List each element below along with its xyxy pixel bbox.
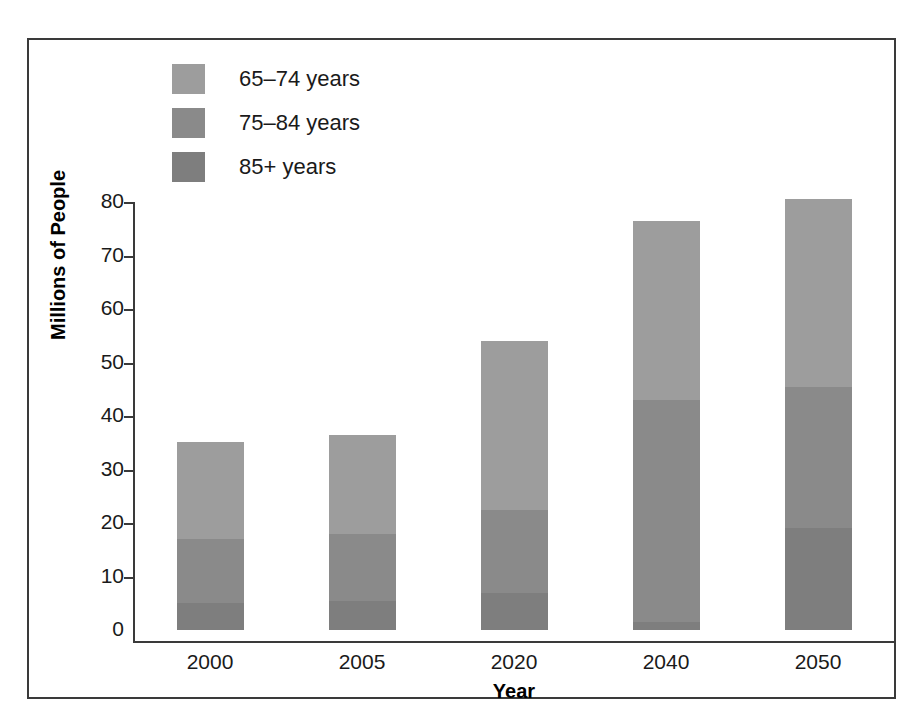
x-tick-label-2020: 2020 (454, 650, 574, 674)
legend-label: 85+ years (239, 155, 336, 179)
legend-swatch-icon (172, 108, 205, 138)
y-tick-label: 50 (101, 351, 124, 373)
bar-segment-75-84-years-2005[interactable] (329, 534, 396, 601)
bar-2005[interactable] (329, 435, 396, 630)
x-tick-label-2005: 2005 (302, 650, 422, 674)
bar-segment-65-74-years-2000[interactable] (177, 442, 244, 539)
legend-item-0[interactable]: 65–74 years (172, 57, 360, 101)
y-tick-label: 30 (101, 458, 124, 480)
legend-item-1[interactable]: 75–84 years (172, 101, 360, 145)
y-tick-label: 0 (112, 618, 124, 640)
bar-segment-85-years-2050[interactable] (785, 528, 852, 630)
y-tick-mark (124, 416, 134, 418)
legend-swatch-icon (172, 152, 205, 182)
bar-segment-85-years-2020[interactable] (481, 593, 548, 630)
y-tick-label: 40 (101, 404, 124, 426)
bar-2000[interactable] (177, 442, 244, 630)
bar-2050[interactable] (785, 199, 852, 630)
y-tick-label: 70 (101, 244, 124, 266)
bar-segment-75-84-years-2050[interactable] (785, 387, 852, 529)
bar-segment-85-years-2000[interactable] (177, 603, 244, 630)
y-tick-mark (124, 256, 134, 258)
legend-label: 65–74 years (239, 67, 360, 91)
y-tick-mark (124, 363, 134, 365)
bar-segment-85-years-2005[interactable] (329, 601, 396, 630)
y-tick-label: 80 (101, 190, 124, 212)
x-tick-label-2050: 2050 (758, 650, 878, 674)
bar-segment-75-84-years-2020[interactable] (481, 510, 548, 593)
figure-frame: Millions of People 65–74 years75–84 year… (27, 38, 896, 699)
y-tick-mark (124, 470, 134, 472)
x-tick-label-2000: 2000 (150, 650, 270, 674)
legend-swatch-icon (172, 64, 205, 94)
x-axis-line (133, 641, 895, 643)
plot-region: 01020304050607080 20002005202020402050 Y… (134, 202, 894, 642)
chart-area: Millions of People 65–74 years75–84 year… (29, 40, 898, 701)
y-tick-label: 60 (101, 297, 124, 319)
y-axis-title: Millions of People (47, 170, 70, 340)
bar-2040[interactable] (633, 221, 700, 630)
legend-item-2[interactable]: 85+ years (172, 145, 360, 189)
bar-segment-65-74-years-2040[interactable] (633, 221, 700, 400)
y-tick-label: 20 (101, 511, 124, 533)
chart-legend: 65–74 years75–84 years85+ years (172, 57, 360, 189)
bar-segment-65-74-years-2005[interactable] (329, 435, 396, 534)
bar-segment-85-years-2040[interactable] (633, 622, 700, 630)
bar-segment-65-74-years-2020[interactable] (481, 341, 548, 510)
bar-segment-75-84-years-2040[interactable] (633, 400, 700, 622)
legend-label: 75–84 years (239, 111, 360, 135)
y-tick-label: 10 (101, 565, 124, 587)
y-tick-mark (124, 523, 134, 525)
y-tick-mark (124, 309, 134, 311)
bar-segment-75-84-years-2000[interactable] (177, 539, 244, 603)
y-tick-mark (124, 577, 134, 579)
x-tick-label-2040: 2040 (606, 650, 726, 674)
y-tick-mark (124, 202, 134, 204)
x-axis-title: Year (134, 680, 894, 703)
bar-segment-65-74-years-2050[interactable] (785, 199, 852, 386)
bar-2020[interactable] (481, 341, 548, 630)
